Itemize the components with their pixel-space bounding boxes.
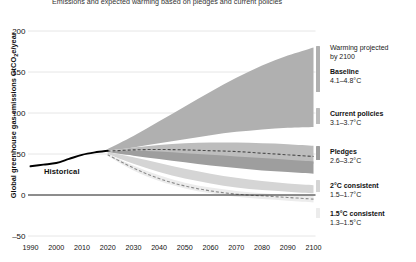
x-tick-2070: 2070 [228,243,244,252]
y-tick--50: –50 [12,232,26,241]
legend-item-value: 1.5–1.7°C [330,191,379,200]
x-tick-2050: 2050 [177,243,193,252]
x-tick-2100: 2100 [306,243,322,252]
legend-item-value: 2.6–3.2°C [330,157,361,166]
legend-item-name: 1.5°C consistent [330,210,385,219]
chart-root: Emissions and expected warming based on … [0,0,416,262]
uncertainty-bands [108,47,314,202]
historical-label: Historical [44,167,80,176]
legend-swatch-pledges [316,146,320,160]
x-tick-2020: 2020 [100,243,116,252]
y-tick-0: 0 [21,191,26,200]
y-tick-50: 50 [17,150,26,159]
legend-item-baseline[interactable]: Baseline4.1–4.8°C [330,68,361,85]
y-tick-100: 100 [12,109,26,118]
legend-swatch-2-c-consistent [316,180,320,192]
legend-item-value: 3.1–3.7°C [330,119,383,128]
x-tick-2040: 2040 [151,243,167,252]
legend: Warming projected by 2100 Baseline4.1–4.… [330,0,416,262]
legend-item-value: 1.3–1.5°C [330,219,385,228]
x-tick-2080: 2080 [254,243,270,252]
legend-item-1-5-c-consistent[interactable]: 1.5°C consistent1.3–1.5°C [330,210,385,227]
legend-item-name: Baseline [330,68,361,77]
y-tick-labels: 200150100500–50 [12,27,26,241]
x-tick-2010: 2010 [74,243,90,252]
legend-heading-line1: Warming projected [330,44,389,53]
legend-item-2-c-consistent[interactable]: 2°C consistent1.5–1.7°C [330,182,379,199]
legend-heading-line2: by 2100 [330,53,389,62]
legend-swatch-current-policies [316,108,320,124]
x-tick-2060: 2060 [203,243,219,252]
legend-swatch-baseline [316,46,320,92]
y-tick-150: 150 [12,68,26,77]
x-tick-1990: 1990 [23,243,39,252]
x-tick-2000: 2000 [48,243,64,252]
legend-item-name: 2°C consistent [330,182,379,191]
x-tick-2090: 2090 [280,243,296,252]
historical-line [31,151,108,167]
legend-item-name: Current policies [330,110,383,119]
historical-path [31,151,108,167]
x-tick-labels: 1990200020102020203020402050206020702080… [23,243,322,252]
legend-item-current-policies[interactable]: Current policies3.1–3.7°C [330,110,383,127]
legend-item-pledges[interactable]: Pledges2.6–3.2°C [330,148,361,165]
legend-item-value: 4.1–4.8°C [330,77,361,86]
x-tick-2030: 2030 [125,243,141,252]
legend-item-name: Pledges [330,148,361,157]
band-baseline [108,47,314,150]
y-tick-200: 200 [12,27,26,36]
legend-swatch-1-5-c-consistent [316,208,320,218]
legend-heading: Warming projected by 2100 [330,44,389,61]
